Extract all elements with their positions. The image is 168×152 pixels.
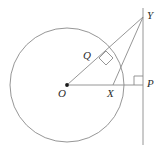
segment-X-Y: [113, 17, 143, 85]
point-label-P: P: [147, 78, 154, 89]
point-label-O: O: [58, 88, 66, 99]
point-label-X: X: [107, 88, 114, 99]
point-label-Q: Q: [83, 50, 91, 61]
geometry-canvas: [0, 0, 168, 152]
point-label-Y: Y: [147, 10, 153, 21]
geometry-figure: O Q X P Y: [0, 0, 168, 152]
right-angle-at-Q-marker: [99, 51, 113, 65]
segment-O-Y: [67, 17, 143, 85]
right-angle-at-P-marker: [134, 76, 143, 85]
